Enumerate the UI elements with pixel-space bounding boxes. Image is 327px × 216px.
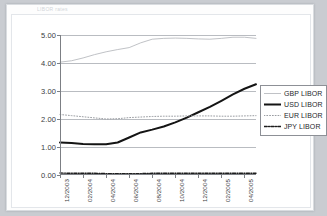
legend-swatch-icon [264,111,281,120]
legend-swatch-icon [264,100,281,109]
series-line-gbp-libor [60,37,256,62]
line-chart: 0.001.002.003.004.005.00 12/200302/20040… [24,27,302,205]
y-tick-label: 2.00 [41,115,56,124]
x-tick-label: 06/2004 [132,179,139,202]
legend-swatch-icon [264,122,281,131]
y-tick-label: 4.00 [41,59,56,68]
x-axis-labels: 12/200302/200404/200406/200408/200410/20… [60,175,256,215]
legend-item-jpy-libor[interactable]: JPY LIBOR [264,121,323,132]
legend-item-eur-libor[interactable]: EUR LIBOR [264,110,323,121]
y-tick-label: 5.00 [41,31,56,40]
legend-swatch-icon [264,89,281,98]
chart-container: 0.001.002.003.004.005.00 12/200302/20040… [11,14,311,208]
x-tick-label: 12/2004 [201,179,208,202]
plot-area: 0.001.002.003.004.005.00 [60,35,256,175]
legend-label: USD LIBOR [284,101,323,108]
y-tick-label: 0.00 [41,171,56,180]
data-series-layer [60,35,256,175]
document-sheet: LIBOR rates 0.001.002.003.004.005.00 12/… [6,4,314,211]
x-tick-label: 04/2004 [109,179,116,202]
legend-item-usd-libor[interactable]: USD LIBOR [264,99,323,110]
legend-label: JPY LIBOR [284,123,321,130]
series-line-eur-libor [60,115,256,119]
x-tick-label: 12/2003 [63,179,70,202]
x-tick-label: 08/2004 [155,179,162,202]
x-tick-label: 02/2004 [86,179,93,202]
chart-legend: GBP LIBORUSD LIBOREUR LIBORJPY LIBOR [260,85,327,136]
x-tick-label: 04/2005 [247,179,254,202]
y-tick-label: 1.00 [41,143,56,152]
legend-label: EUR LIBOR [284,112,323,119]
x-tick-label: 10/2004 [178,179,185,202]
legend-item-gbp-libor[interactable]: GBP LIBOR [264,88,323,99]
x-tick-label: 02/2005 [224,179,231,202]
y-tick-label: 3.00 [41,87,56,96]
series-line-usd-libor [60,84,256,144]
page-title: LIBOR rates [37,5,157,13]
legend-label: GBP LIBOR [284,90,323,97]
y-axis-line [60,35,61,175]
